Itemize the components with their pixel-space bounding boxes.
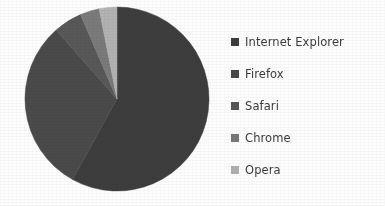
legend-label-internet-explorer: Internet Explorer [245, 36, 344, 48]
legend-swatch-icon-safari [231, 102, 239, 110]
legend-item-firefox[interactable]: Firefox [231, 65, 383, 82]
pie-plot-area [0, 0, 225, 206]
legend-label-opera: Opera [245, 164, 281, 176]
legend-item-chrome[interactable]: Chrome [231, 129, 383, 146]
legend-item-opera[interactable]: Opera [231, 161, 383, 178]
pie-slice-group [25, 7, 209, 191]
pie-svg [0, 0, 225, 206]
chart-legend: Internet Explorer Firefox Safari Chrome … [231, 33, 383, 178]
legend-item-safari[interactable]: Safari [231, 97, 383, 114]
legend-item-internet-explorer[interactable]: Internet Explorer [231, 33, 383, 50]
legend-label-chrome: Chrome [245, 132, 291, 144]
legend-swatch-icon-firefox [231, 70, 239, 78]
legend-label-safari: Safari [245, 100, 279, 112]
pie-chart-figure: Internet Explorer Firefox Safari Chrome … [0, 0, 385, 206]
legend-swatch-icon-chrome [231, 134, 239, 142]
legend-swatch-icon-internet-explorer [231, 38, 239, 46]
legend-swatch-icon-opera [231, 166, 239, 174]
legend-label-firefox: Firefox [245, 68, 284, 80]
